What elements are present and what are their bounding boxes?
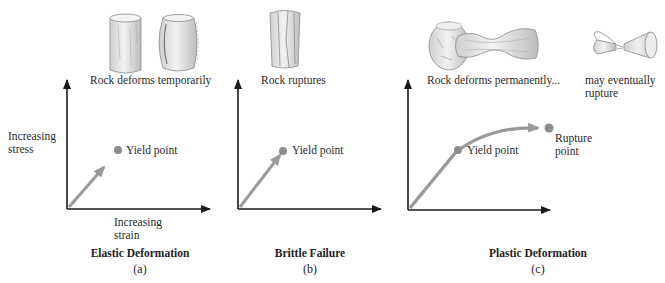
panel-c-rock-caption: Rock deforms permanently...: [427, 74, 560, 87]
panel-b-letter: (b): [250, 262, 370, 277]
panel-c-yield-point-label: Yield point: [467, 144, 518, 157]
y-axis-label-line2: stress: [8, 143, 34, 156]
panel-c-letter: (c): [478, 262, 598, 277]
panel-c-rupture-point-dot: [545, 124, 554, 133]
x-axis-label-line1: Increasing: [114, 216, 162, 229]
panel-c-rock-caption-2-line2: rupture: [585, 87, 618, 100]
panel-c-rock-caption-2-line1: may eventually: [585, 74, 656, 87]
x-axis-label-line2: strain: [114, 229, 140, 242]
y-axis-label-line1: Increasing: [8, 130, 56, 143]
panel-c-yield-point-dot: [454, 146, 462, 154]
rock-intact-cylinder-icon: [110, 14, 141, 73]
panel-b-yield-point-dot: [279, 147, 287, 155]
rock-bulged-cylinder-icon: [159, 15, 199, 72]
panel-b-yield-point-label: Yield point: [292, 144, 343, 157]
rock-necked-icon: [456, 29, 539, 59]
panel-c-caption: Plastic Deformation: [478, 247, 598, 259]
panel-a-yield-point-dot: [114, 146, 122, 154]
panel-a-rock-caption: Rock deforms temporarily: [90, 74, 211, 87]
panel-c-rupture-point-label-line2: point: [555, 145, 579, 158]
rock-fractured-cylinder-icon: [270, 11, 300, 69]
panel-a-letter: (a): [80, 262, 200, 277]
panel-b-rock-caption: Rock ruptures: [261, 74, 326, 87]
panel-c-rupture-point-label-line1: Rupture: [555, 132, 592, 145]
panel-b-brittle-arrow: [240, 155, 280, 207]
panel-c-plastic-curve: [410, 128, 538, 208]
panel-b-caption: Brittle Failure: [250, 247, 370, 259]
panel-a-yield-point-label: Yield point: [126, 144, 177, 157]
panel-a-elastic-arrow: [69, 167, 104, 207]
rock-ruptured-icon: [594, 32, 658, 58]
panel-a-caption: Elastic Deformation: [80, 247, 200, 259]
